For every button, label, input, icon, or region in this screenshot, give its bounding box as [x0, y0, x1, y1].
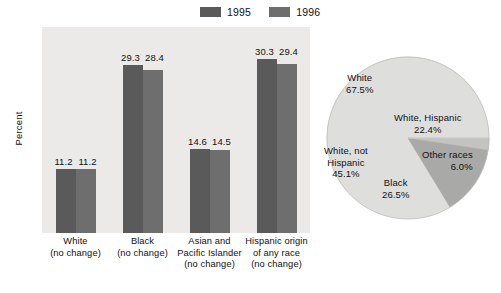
pie-label-wh-line2: 22.4%	[394, 124, 462, 136]
pie-label-wnh-line3: 45.1%	[324, 168, 368, 180]
x-axis-label-black-line2: (no change)	[109, 248, 176, 260]
bar-group-hispanic-origin: 30.3 29.4	[243, 27, 310, 233]
pie-label-white-hispanic: White, Hispanic 22.4%	[394, 112, 462, 135]
bar-value-labels-hispanic: 30.3 29.4	[257, 46, 297, 57]
bar-pair-asian	[190, 149, 230, 233]
pie-label-black: Black 26.5%	[382, 177, 409, 200]
bar-value-label-asian-1996: 14.5	[212, 136, 232, 147]
bar-value-label-hispanic-1995: 30.3	[255, 46, 275, 57]
bar-pair-white	[56, 169, 96, 233]
bar-black-1995[interactable]	[123, 65, 143, 233]
x-axis-label-asian-line1: Asian and	[176, 236, 243, 248]
x-axis-labels: White (no change) Black (no change) Asia…	[42, 236, 310, 271]
bar-white-1995[interactable]	[56, 169, 76, 233]
x-axis-label-hispanic: Hispanic origin of any race (no change)	[243, 236, 310, 271]
pie-label-other-line2: 6.0%	[422, 161, 473, 173]
pie-label-other-races: Other races 6.0%	[422, 149, 473, 172]
bar-chart: Percent 11.2 11.2 29.3	[0, 0, 320, 293]
bar-value-labels-white: 11.2 11.2	[56, 156, 96, 167]
bar-pair-black	[123, 65, 163, 233]
x-axis-label-white-line2: (no change)	[42, 248, 109, 260]
x-axis-label-asian: Asian and Pacific Islander (no change)	[176, 236, 243, 271]
pie-label-wh-line1: White, Hispanic	[394, 112, 462, 124]
bar-value-label-black-1995: 29.3	[121, 52, 141, 63]
bar-group-asian-pacific-islander: 14.6 14.5	[176, 27, 243, 233]
bar-asian-1995[interactable]	[190, 149, 210, 233]
bar-hispanic-1995[interactable]	[257, 59, 277, 233]
bar-value-label-asian-1995: 14.6	[188, 136, 208, 147]
bar-groups: 11.2 11.2 29.3 28.4	[42, 27, 310, 233]
bar-value-label-white-1996: 11.2	[78, 156, 98, 167]
pie-chart: White 67.5% White, not Hispanic 45.1% Wh…	[320, 40, 501, 240]
pie-label-white: White 67.5%	[346, 72, 373, 95]
pie-label-black-line2: 26.5%	[382, 189, 409, 201]
x-axis-label-white-line1: White	[42, 236, 109, 248]
pie-chart-svg	[320, 40, 501, 240]
pie-label-black-line1: Black	[382, 177, 409, 189]
bar-group-white: 11.2 11.2	[42, 27, 109, 233]
x-axis-label-black-line1: Black	[109, 236, 176, 248]
bar-value-labels-asian: 14.6 14.5	[190, 136, 230, 147]
x-axis-label-asian-line2: Pacific Islander	[176, 248, 243, 260]
pie-label-white-line2: 67.5%	[346, 84, 373, 96]
y-axis-label: Percent	[13, 99, 24, 159]
pie-label-other-line1: Other races	[422, 149, 473, 161]
x-axis-label-hispanic-line3: (no change)	[243, 259, 310, 271]
bar-value-label-black-1996: 28.4	[145, 52, 165, 63]
pie-label-white-not-hispanic: White, not Hispanic 45.1%	[324, 145, 368, 180]
bar-value-label-hispanic-1996: 29.4	[279, 46, 299, 57]
bar-plot-area: 11.2 11.2 29.3 28.4	[42, 27, 310, 233]
bar-value-label-white-1995: 11.2	[54, 156, 74, 167]
bar-hispanic-1996[interactable]	[277, 64, 297, 233]
x-axis-label-white: White (no change)	[42, 236, 109, 271]
bar-asian-1996[interactable]	[210, 150, 230, 233]
pie-label-wnh-line2: Hispanic	[324, 157, 368, 169]
bar-white-1996[interactable]	[76, 169, 96, 233]
pie-label-white-line1: White	[346, 72, 373, 84]
bar-value-labels-black: 29.3 28.4	[123, 52, 163, 63]
x-axis-label-hispanic-line1: Hispanic origin	[243, 236, 310, 248]
figure-root: 1995 1996 Percent 11.2 11.2	[0, 0, 501, 293]
bar-group-black: 29.3 28.4	[109, 27, 176, 233]
pie-label-wnh-line1: White, not	[324, 145, 368, 157]
bar-black-1996[interactable]	[143, 70, 163, 233]
bar-pair-hispanic	[257, 59, 297, 233]
x-axis-label-black: Black (no change)	[109, 236, 176, 271]
x-axis-label-hispanic-line2: of any race	[243, 248, 310, 260]
x-axis-label-asian-line3: (no change)	[176, 259, 243, 271]
